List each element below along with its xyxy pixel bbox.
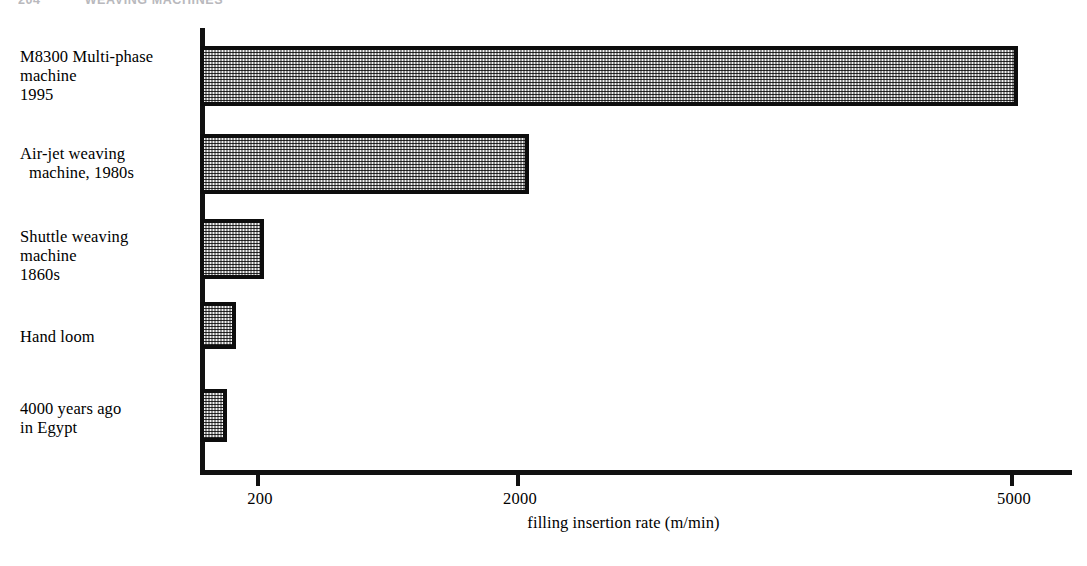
category-label-line-2: machine, 1980s bbox=[20, 163, 198, 182]
bar-4000-years-ago-in-egypt bbox=[200, 389, 227, 442]
x-axis-line bbox=[200, 470, 1072, 475]
category-label-line-1: M8300 Multi-phase bbox=[20, 47, 153, 66]
category-label-line-2: machine bbox=[20, 66, 77, 85]
category-label-hand-loom: Hand loom bbox=[20, 327, 198, 346]
category-label-line-1: Shuttle weaving bbox=[20, 227, 128, 246]
category-label-m8300-multi-phase-machine-1995: M8300 Multi-phase machine 1995 bbox=[20, 47, 198, 104]
bar-m8300-multi-phase-machine-1995 bbox=[200, 46, 1018, 106]
bar-hand-loom bbox=[200, 302, 236, 349]
category-label-line-3: 1860s bbox=[20, 265, 60, 284]
x-axis-title: filling insertion rate (m/min) bbox=[0, 513, 1087, 533]
category-label-4000-years-ago-in-egypt: 4000 years ago in Egypt bbox=[20, 399, 198, 437]
x-tick-label-5000: 5000 bbox=[969, 489, 1059, 509]
bar-air-jet-weaving-machine-1980s bbox=[200, 134, 529, 194]
category-label-shuttle-weaving-machine-1860s: Shuttle weaving machine 1860s bbox=[20, 227, 198, 284]
category-label-line-1: Hand loom bbox=[20, 327, 95, 346]
x-tick-mark-200 bbox=[256, 475, 260, 486]
category-label-line-2: machine bbox=[20, 246, 77, 265]
category-label-air-jet-weaving-machine-1980s: Air-jet weaving machine, 1980s bbox=[20, 144, 198, 182]
category-label-line-1: Air-jet weaving bbox=[20, 144, 125, 163]
x-tick-mark-2000 bbox=[516, 475, 520, 486]
x-tick-label-200: 200 bbox=[215, 489, 305, 509]
bar-chart-figure: 200 2000 5000 filling insertion rate (m/… bbox=[0, 0, 1087, 566]
category-label-line-2: in Egypt bbox=[20, 418, 77, 437]
x-tick-mark-5000 bbox=[1010, 475, 1014, 486]
category-label-line-3: 1995 bbox=[20, 85, 53, 104]
x-tick-label-2000: 2000 bbox=[475, 489, 565, 509]
bar-shuttle-weaving-machine-1860s bbox=[200, 219, 264, 279]
category-label-line-1: 4000 years ago bbox=[20, 399, 121, 418]
